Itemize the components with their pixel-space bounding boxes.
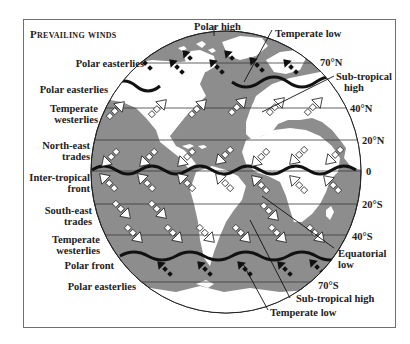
label-polar-high: Polar high	[194, 21, 241, 32]
label-line: South-east	[45, 205, 92, 216]
label-polar-easterlies-north-1: Polar easterlies	[76, 58, 144, 69]
label-temperate-low-north: Temperate low	[275, 28, 341, 39]
label-temperate-low-south: Temperate low	[270, 307, 336, 318]
label-temperate-westerlies-north: Temperate westerlies	[50, 103, 98, 125]
label-line: trades	[42, 151, 90, 162]
label-polar-easterlies-north-2: Polar easterlies	[40, 84, 108, 95]
label-line: high	[336, 82, 392, 93]
label-subtropical-high-north: Sub-tropical high	[336, 71, 392, 93]
label-line: Temperate	[50, 103, 98, 114]
label-polar-easterlies-south: Polar easterlies	[68, 281, 136, 292]
latitude-label-20n: 20°N	[362, 135, 384, 146]
label-line: westerlies	[50, 114, 98, 125]
label-line: low	[338, 259, 386, 270]
label-southeast-trades: South-east trades	[45, 205, 92, 227]
latitude-label-0: 0	[366, 166, 371, 177]
latitude-label-40s: 40°S	[352, 231, 373, 242]
label-temperate-westerlies-south: Temperate westerlies	[52, 234, 100, 256]
label-line: Temperate	[52, 234, 100, 245]
label-northeast-trades: North-east trades	[42, 140, 90, 162]
label-intertropical-front: Inter-tropical front	[29, 172, 90, 194]
latitude-label-20s: 20°S	[362, 199, 383, 210]
label-line: Equatorial	[338, 248, 386, 259]
latitude-label-70s: 70°S	[318, 280, 339, 291]
label-line: North-east	[42, 140, 90, 151]
label-line: front	[29, 183, 90, 194]
label-line: Sub-tropical	[336, 71, 392, 82]
label-line: Inter-tropical	[29, 172, 90, 183]
latitude-label-70n: 70°N	[320, 57, 342, 68]
label-line: westerlies	[52, 245, 100, 256]
latitude-label-40n: 40°N	[350, 103, 372, 114]
label-equatorial-low: Equatorial low	[338, 248, 386, 270]
label-line: trades	[45, 216, 92, 227]
label-polar-front: Polar front	[65, 260, 114, 271]
label-subtropical-high-south: Sub-tropical high	[296, 293, 374, 304]
